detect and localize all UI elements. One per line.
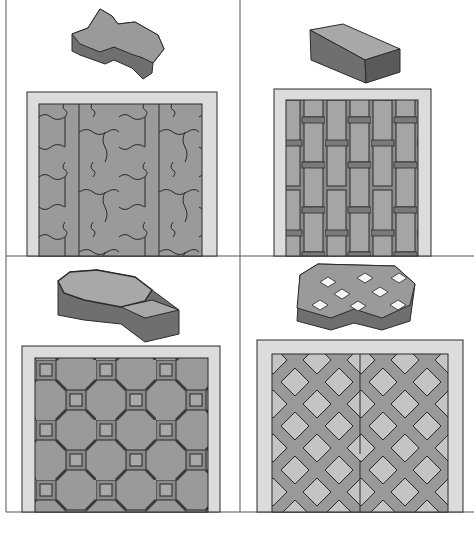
rectangle-block-illustration [310,24,400,83]
paver-patterns-figure [0,0,474,535]
zigzag-pattern-bed [27,92,217,256]
grass-grid-pattern-bed [257,340,463,512]
octagon-pattern-bed [22,346,220,512]
octagon-block-illustration [58,270,179,342]
rectangle-pattern-bed [274,89,431,256]
grass-grid-block-illustration [297,264,415,330]
zigzag-block-illustration [72,9,164,79]
